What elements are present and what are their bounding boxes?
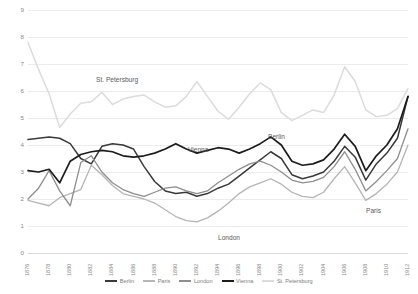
series-line-vienna [28,96,408,182]
y-axis-tick-label: 2 [2,196,24,202]
series-lines [28,10,408,253]
y-axis-tick-label: 9 [2,7,24,13]
y-axis-tick-label: 8 [2,34,24,40]
legend-label: Vienna [236,278,253,284]
line-chart: 0123456789 St. PetersburgViennaBerlinLon… [0,0,418,294]
y-axis-tick-label: 7 [2,61,24,67]
x-axis-tick-label: 1882 [87,264,93,276]
legend-swatch [222,280,234,282]
x-axis-tick-label: 1904 [320,264,326,276]
x-axis-tick-label: 1890 [172,264,178,276]
y-axis: 0123456789 [0,10,26,253]
y-axis-tick-label: 3 [2,169,24,175]
annotation-label: Berlin [268,133,285,140]
x-axis-tick-label: 1902 [298,264,304,276]
legend-label: London [194,278,213,284]
legend-item-berlin[interactable]: Berlin [105,278,134,284]
x-axis-tick-label: 1908 [362,264,368,276]
x-axis-tick-label: 1884 [108,264,114,276]
x-axis-tick-label: 1894 [214,264,220,276]
x-axis-tick-label: 1896 [235,264,241,276]
legend-label: Berlin [120,278,134,284]
x-axis-tick-label: 1880 [66,264,72,276]
annotation-label: Paris [366,207,381,214]
legend-item-st-petersburg[interactable]: St. Petersburg [262,278,312,284]
annotation-label: Vienna [188,146,208,153]
x-axis-tick-label: 1906 [341,264,347,276]
y-axis-tick-label: 4 [2,142,24,148]
chart-legend: BerlinParisLondonViennaSt. Petersburg [0,278,418,284]
legend-swatch [262,280,274,282]
y-axis-tick-label: 5 [2,115,24,121]
x-axis-tick-label: 1888 [151,264,157,276]
x-axis: 1876187818801882188418861888189018921894… [28,254,408,276]
x-axis-tick-label: 1878 [45,264,51,276]
y-axis-tick-label: 0 [2,250,24,256]
annotation-label: London [218,234,240,241]
x-axis-tick-label: 1898 [256,264,262,276]
plot-area: St. PetersburgViennaBerlinLondonParis [28,10,408,253]
legend-label: Paris [158,278,171,284]
legend-swatch [143,280,155,282]
x-axis-tick-label: 1892 [193,264,199,276]
legend-item-london[interactable]: London [179,278,212,284]
x-axis-tick-label: 1886 [130,264,136,276]
x-axis-tick-label: 1876 [24,264,30,276]
series-line-st-petersburg [28,42,408,127]
x-axis-tick-label: 1912 [404,264,410,276]
legend-item-paris[interactable]: Paris [143,278,170,284]
y-axis-tick-label: 1 [2,223,24,229]
y-axis-tick-label: 6 [2,88,24,94]
x-axis-tick-label: 1900 [277,264,283,276]
annotation-label: St. Petersburg [96,76,138,83]
legend-label: St. Petersburg [277,278,313,284]
x-axis-tick-label: 1910 [383,264,389,276]
legend-swatch [105,280,117,282]
legend-swatch [179,280,191,282]
legend-item-vienna[interactable]: Vienna [222,278,254,284]
